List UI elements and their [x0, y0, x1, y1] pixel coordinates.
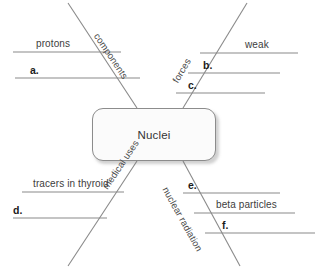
entry-label-f: f.	[222, 219, 228, 231]
branch-stem-components	[68, 3, 137, 108]
entry-label-e: e.	[188, 179, 197, 191]
concept-map-diagram: Nuclei components forces medical uses nu…	[0, 0, 315, 274]
entry-label-a: a.	[30, 64, 39, 76]
entry-label-c: c.	[188, 79, 197, 91]
entry-label-protons: protons	[36, 38, 70, 49]
entry-label-d: d.	[13, 204, 22, 216]
branch-stem-medical-uses	[68, 161, 137, 266]
entry-label-weak: weak	[245, 39, 269, 50]
entry-label-b: b.	[203, 59, 212, 71]
center-node-label: Nuclei	[137, 129, 170, 141]
branch-stem-forces	[183, 3, 247, 108]
entry-label-beta-particles: beta particles	[216, 199, 277, 210]
entry-label-tracers-in-thyroid: tracers in thyroid	[33, 178, 109, 189]
center-node: Nuclei	[92, 108, 216, 161]
